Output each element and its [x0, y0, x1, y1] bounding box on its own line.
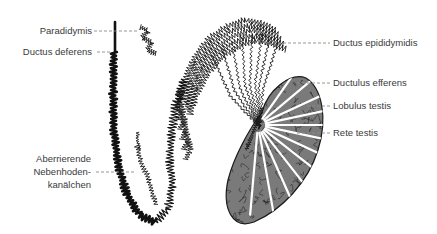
aberrant-ductules — [134, 132, 158, 204]
ductus-epididymidis-tail — [153, 79, 187, 223]
label-aberrierende-line1: Aberrierende — [36, 153, 91, 164]
testis-epididymis-diagram: Paradidymis Ductus deferens Aberrierende… — [0, 0, 437, 234]
label-aberrierende-line2: Nebenhoden- — [33, 166, 91, 177]
label-lobulus-testis: Lobulus testis — [333, 100, 391, 111]
ductus-deferens-coiled — [109, 52, 156, 224]
ductus-deferens — [109, 22, 187, 224]
testis-outline — [226, 77, 323, 224]
label-paradidymis: Paradidymis — [40, 25, 93, 36]
paradidymis-coil — [140, 24, 156, 56]
label-ductus-deferens: Ductus deferens — [23, 46, 92, 57]
label-aberrierende-line3: kanälchen — [48, 179, 91, 190]
paradidymis — [140, 24, 156, 56]
aberrant-ductule — [134, 145, 158, 205]
label-rete-testis: Rete testis — [333, 127, 378, 138]
testis — [217, 51, 348, 233]
label-ductulus-efferens: Ductulus efferens — [333, 77, 407, 88]
label-ductus-epididymidis: Ductus epididymidis — [333, 37, 418, 48]
